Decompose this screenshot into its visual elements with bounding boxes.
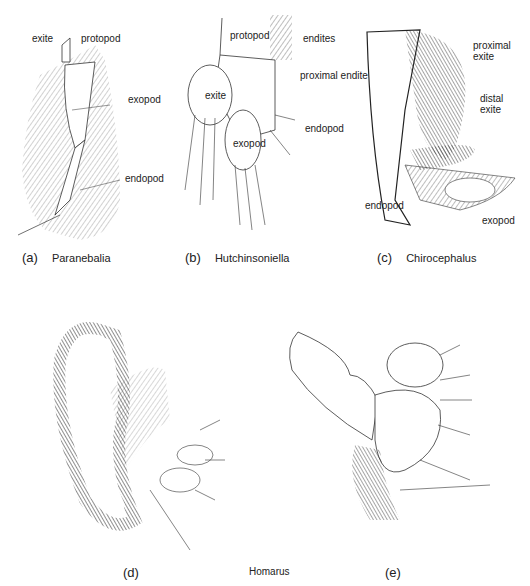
panel-a-drawing xyxy=(18,38,120,240)
label-c-distal-exite-line2: exite xyxy=(480,104,501,115)
caption-e-letter: (e) xyxy=(385,565,415,580)
panel-e-drawing xyxy=(290,332,490,520)
label-c-proximal-exite-line1: proximal xyxy=(473,40,511,51)
caption-d-letter: (d) xyxy=(123,565,153,580)
caption-a: (a)Paranebalia xyxy=(22,250,111,265)
caption-c-genus: Chirocephalus xyxy=(406,252,476,264)
panel-b-drawing xyxy=(185,15,295,230)
label-a-exite: exite xyxy=(32,33,53,44)
label-a-protopod: protopod xyxy=(81,33,120,44)
label-c-exopod: exopod xyxy=(482,215,515,226)
label-b-exite: exite xyxy=(205,90,226,101)
panel-d-drawing xyxy=(59,328,225,550)
caption-c-letter: (c) xyxy=(377,250,392,265)
caption-b-letter: (b) xyxy=(185,250,201,265)
caption-homarus: Homarus xyxy=(249,566,290,577)
label-c-endopod: endopod xyxy=(365,200,404,211)
label-a-exopod: exopod xyxy=(128,94,161,105)
label-b-endopod: endopod xyxy=(305,123,344,134)
caption-a-genus: Paranebalia xyxy=(52,252,111,264)
caption-c: (c)Chirocephalus xyxy=(377,250,477,265)
limb-drawings xyxy=(0,0,530,586)
label-c-proximal-exite-line2: exite xyxy=(473,51,494,62)
label-c-distal-exite-line1: distal xyxy=(480,93,503,104)
caption-b-genus: Hutchinsoniella xyxy=(215,252,290,264)
label-c-proximal-endite: proximal endite xyxy=(300,70,368,81)
label-b-endites: endites xyxy=(303,33,335,44)
label-b-exopod: exopod xyxy=(233,138,266,149)
caption-b: (b)Hutchinsoniella xyxy=(185,250,290,265)
caption-a-letter: (a) xyxy=(22,250,38,265)
label-b-protopod: protopod xyxy=(230,30,269,41)
label-a-endopod: endopod xyxy=(125,173,164,184)
